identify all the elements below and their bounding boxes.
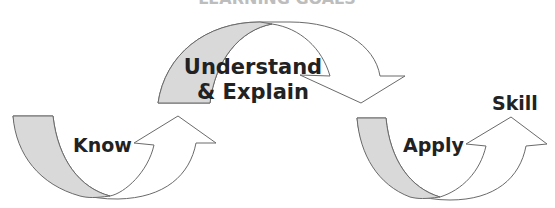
learning-progression-diagram: LEARNING GOALS Know Understand & Explain… [0,0,555,208]
band-apply [357,118,440,199]
label-know: Know [73,134,132,156]
diagram-title-clipped: LEARNING GOALS [198,0,356,8]
curved-arrow-know [13,116,216,199]
band-know [13,116,110,198]
label-understand-line2: & Explain [197,80,309,104]
label-apply: Apply [403,134,464,156]
label-understand-line1: Understand [184,55,322,79]
label-skill: Skill [492,92,538,114]
curved-arrow-apply [357,117,547,200]
